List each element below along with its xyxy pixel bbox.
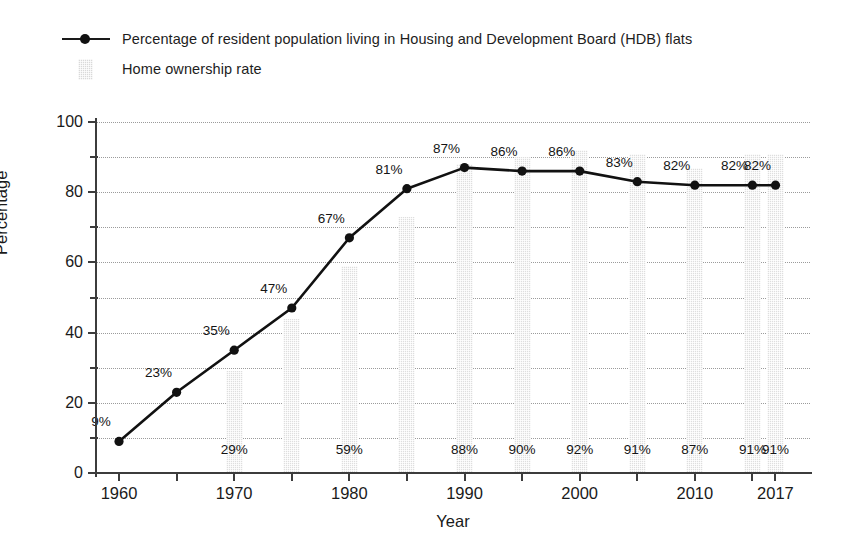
y-tick-label-80: 80: [65, 183, 83, 201]
x-tick: [348, 472, 350, 481]
chart-legend: Percentage of resident population living…: [60, 24, 850, 84]
x-tick: [176, 472, 178, 481]
y-tick: [88, 402, 97, 404]
x-tick: [118, 472, 120, 481]
legend-label-home-ownership: Home ownership rate: [112, 61, 262, 77]
bar-label-1970: 29%: [221, 442, 248, 457]
x-tick-label-2017: 2017: [757, 484, 794, 503]
data-point-1970: [230, 346, 239, 355]
y-tick: [90, 297, 98, 299]
y-tick: [90, 226, 98, 228]
line-series-hdb: [96, 122, 810, 473]
x-tick: [464, 472, 466, 481]
bar-label-2017: 91%: [762, 442, 789, 457]
data-point-1985: [402, 184, 411, 193]
y-tick: [90, 156, 98, 158]
legend-line-marker-icon: [60, 27, 112, 51]
data-point-1995: [518, 167, 527, 176]
legend-bar-swatch-icon: [60, 57, 112, 81]
y-tick-label-60: 60: [65, 253, 83, 271]
point-label-2017: 82%: [744, 158, 771, 173]
y-tick-label-40: 40: [65, 324, 83, 342]
y-tick: [88, 121, 97, 123]
bar-label-2000: 92%: [566, 442, 593, 457]
x-tick-label-1980: 1980: [331, 484, 368, 503]
chart-figure: Percentage of resident population living…: [0, 0, 856, 553]
x-tick: [636, 472, 638, 481]
x-tick: [521, 472, 523, 481]
legend-label-hdb-line: Percentage of resident population living…: [112, 31, 692, 47]
y-tick-label-20: 20: [65, 394, 83, 412]
point-label-2010: 82%: [663, 158, 690, 173]
data-point-2017: [771, 181, 780, 190]
legend-item-home-ownership: Home ownership rate: [60, 54, 850, 84]
x-axis-title: Year: [436, 512, 469, 531]
point-label-1970: 35%: [203, 323, 230, 338]
y-tick-label-0: 0: [74, 464, 83, 482]
data-point-2005: [633, 177, 642, 186]
data-point-2000: [575, 167, 584, 176]
point-label-2000: 86%: [548, 144, 575, 159]
point-label-1995: 86%: [491, 144, 518, 159]
x-tick-label-2000: 2000: [561, 484, 598, 503]
x-tick: [291, 472, 293, 481]
point-label-1975: 47%: [260, 281, 287, 296]
y-tick: [88, 191, 97, 193]
x-tick: [694, 472, 696, 481]
point-label-2005: 83%: [606, 155, 633, 170]
data-point-2015: [748, 181, 757, 190]
x-tick-label-1970: 1970: [216, 484, 253, 503]
x-tick: [406, 472, 408, 481]
bar-label-1990: 88%: [451, 442, 478, 457]
y-tick: [90, 367, 98, 369]
point-label-1990: 87%: [433, 141, 460, 156]
x-tick: [579, 472, 581, 481]
data-point-2010: [690, 181, 699, 190]
data-point-1990: [460, 163, 469, 172]
y-tick: [88, 332, 97, 334]
bar-label-2005: 91%: [624, 442, 651, 457]
x-tick-label-1960: 1960: [101, 484, 138, 503]
x-tick: [233, 472, 235, 481]
bar-label-1980: 59%: [336, 442, 363, 457]
hdb-line-path: [119, 168, 776, 442]
point-label-1965: 23%: [145, 365, 172, 380]
data-point-1975: [287, 303, 296, 312]
point-label-1985: 81%: [375, 162, 402, 177]
data-point-1965: [172, 388, 181, 397]
y-axis: 020406080100: [95, 118, 97, 477]
legend-item-hdb-line: Percentage of resident population living…: [60, 24, 850, 54]
y-tick: [88, 261, 97, 263]
x-tick: [774, 472, 776, 481]
data-point-1960: [114, 437, 123, 446]
x-tick-label-1990: 1990: [446, 484, 483, 503]
plot-area: 9%23%35%47%67%81%87%86%86%83%82%82%82%29…: [96, 122, 810, 473]
y-axis-title: Percentage: [0, 171, 11, 255]
point-label-1980: 67%: [318, 211, 345, 226]
data-point-1980: [345, 233, 354, 242]
bar-label-2010: 87%: [681, 442, 708, 457]
x-axis: 1960197019801990200020102017: [88, 472, 812, 474]
y-tick-label-100: 100: [56, 113, 83, 131]
y-tick: [90, 437, 98, 439]
bar-label-1995: 90%: [509, 442, 536, 457]
x-tick: [751, 472, 753, 481]
x-tick-label-2010: 2010: [676, 484, 713, 503]
